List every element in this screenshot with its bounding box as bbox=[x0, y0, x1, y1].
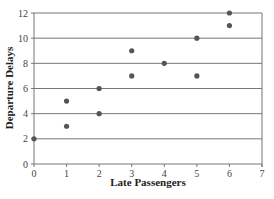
data-points bbox=[31, 10, 232, 141]
x-tick-label: 7 bbox=[260, 168, 265, 179]
data-point bbox=[64, 124, 69, 129]
y-tick-label: 4 bbox=[23, 108, 28, 119]
data-point bbox=[194, 36, 199, 41]
data-point bbox=[194, 73, 199, 78]
x-tick-label: 2 bbox=[97, 168, 102, 179]
data-point bbox=[162, 61, 167, 66]
data-point bbox=[97, 111, 102, 116]
y-tick-label: 6 bbox=[23, 83, 28, 94]
x-tick-label: 6 bbox=[227, 168, 232, 179]
y-tick-label: 2 bbox=[23, 133, 28, 144]
y-tick-label: 0 bbox=[23, 159, 28, 170]
data-point bbox=[129, 73, 134, 78]
gridlines bbox=[34, 13, 262, 164]
y-tick-label: 10 bbox=[18, 33, 28, 44]
data-point bbox=[227, 23, 232, 28]
data-point bbox=[227, 10, 232, 15]
data-point bbox=[31, 136, 36, 141]
plot-frame bbox=[34, 13, 262, 167]
data-point bbox=[64, 98, 69, 103]
y-axis-label: Departure Delays bbox=[3, 46, 15, 129]
data-point bbox=[97, 86, 102, 91]
y-tick-label: 12 bbox=[18, 8, 28, 19]
y-tick-label: 8 bbox=[23, 58, 28, 69]
data-point bbox=[129, 48, 134, 53]
x-tick-label: 1 bbox=[64, 168, 69, 179]
y-axis-ticks: 024681012 bbox=[18, 8, 34, 170]
x-axis-label: Late Passengers bbox=[110, 176, 186, 188]
scatter-chart: 024681012 01234567 Late Passengers Depar… bbox=[0, 0, 274, 199]
x-tick-label: 0 bbox=[32, 168, 37, 179]
x-tick-label: 5 bbox=[194, 168, 199, 179]
